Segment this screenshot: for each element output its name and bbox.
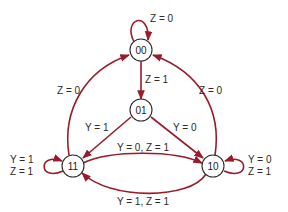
label-10-to-11: Y = 1, Z = 1 [117, 196, 170, 207]
label-00-to-01: Z = 1 [145, 74, 169, 85]
state-11-label: 11 [68, 161, 79, 172]
label-11-self-line1: Y = 1 [10, 154, 34, 165]
label-10-self-line1: Y = 0 [248, 154, 272, 165]
label-01-to-10: Y = 0 [173, 122, 197, 133]
state-01: 01 [130, 99, 152, 121]
label-11-to-10: Y = 0, Z = 1 [117, 142, 170, 153]
state-00: 00 [130, 39, 152, 61]
state-01-label: 01 [135, 105, 147, 116]
label-11-self-line2: Z = 1 [10, 166, 34, 177]
edge-10-to-11 [82, 173, 206, 193]
edge-10-to-00 [153, 55, 216, 155]
label-00-self: Z = 0 [150, 13, 174, 24]
label-10-to-00: Z = 0 [199, 85, 223, 96]
state-10-label: 10 [207, 161, 219, 172]
edge-11-to-10 [83, 153, 202, 163]
edge-10-self [224, 159, 244, 173]
state-10: 10 [202, 155, 224, 177]
state-00-label: 00 [135, 45, 147, 56]
label-11-to-00: Z = 0 [57, 85, 81, 96]
label-10-self-line2: Z = 1 [248, 166, 272, 177]
edge-11-self [44, 159, 63, 173]
label-01-to-11: Y = 1 [85, 122, 109, 133]
state-11: 11 [62, 155, 84, 177]
edge-11-to-00 [68, 55, 129, 155]
state-diagram: 00 01 11 10 Z = 0 Z = 1 Z = 0 Z = 0 Y = … [0, 0, 288, 212]
